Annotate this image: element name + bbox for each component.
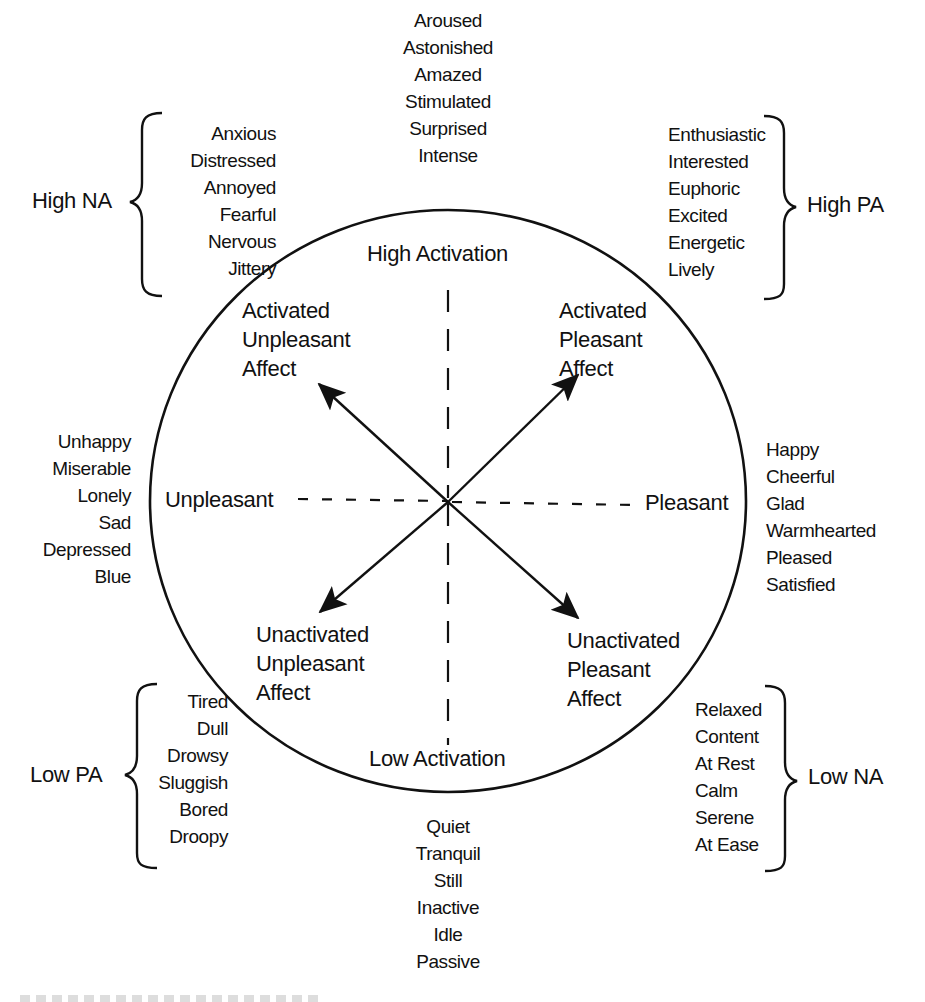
word: Drowsy xyxy=(167,742,228,769)
word: Satisfied xyxy=(766,571,835,598)
word: Glad xyxy=(766,490,805,517)
word-group-low-pa: Tired Dull Drowsy Sluggish Bored Droopy xyxy=(130,688,228,850)
quadrant-activated-unpleasant: Activated Unpleasant Affect xyxy=(242,296,350,383)
word: Happy xyxy=(766,436,819,463)
quadrant-activated-pleasant: Activated Pleasant Affect xyxy=(559,296,647,383)
word: Pleased xyxy=(766,544,832,571)
quadrant-line: Pleasant xyxy=(567,655,680,684)
word: Enthusiastic xyxy=(668,121,766,148)
label-low-pa: Low PA xyxy=(30,760,102,790)
quadrant-line: Activated xyxy=(559,296,647,325)
quadrant-unactivated-unpleasant: Unactivated Unpleasant Affect xyxy=(256,620,369,707)
word: Lonely xyxy=(77,482,131,509)
word: Miserable xyxy=(52,455,131,482)
word: Sad xyxy=(98,509,131,536)
word: Calm xyxy=(695,777,738,804)
word: Fearful xyxy=(220,201,276,228)
word: Jittery xyxy=(228,255,276,282)
quadrant-line: Affect xyxy=(242,354,350,383)
word: Distressed xyxy=(190,147,276,174)
cropped-caption xyxy=(20,995,320,1002)
word-group-right: Happy Cheerful Glad Warmhearted Pleased … xyxy=(766,436,876,598)
word: At Rest xyxy=(695,750,755,777)
word: Quiet xyxy=(426,813,469,840)
word: Lively xyxy=(668,256,714,283)
brace-low-na xyxy=(765,686,797,871)
word-group-low-na: Relaxed Content At Rest Calm Serene At E… xyxy=(695,696,762,858)
word: Passive xyxy=(416,948,480,975)
word: Energetic xyxy=(668,229,745,256)
quadrant-line: Unpleasant xyxy=(242,325,350,354)
word: Astonished xyxy=(403,34,493,61)
word: At Ease xyxy=(695,831,759,858)
word: Idle xyxy=(433,921,462,948)
quadrant-line: Unpleasant xyxy=(256,649,369,678)
pleasantness-axis-right xyxy=(452,502,636,505)
word: Excited xyxy=(668,202,728,229)
word: Aroused xyxy=(414,7,482,34)
word: Blue xyxy=(95,563,131,590)
word: Bored xyxy=(179,796,228,823)
word: Inactive xyxy=(417,894,479,921)
quadrant-line: Activated xyxy=(242,296,350,325)
word: Still xyxy=(434,867,463,894)
word: Serene xyxy=(695,804,754,831)
quadrant-unactivated-pleasant: Unactivated Pleasant Affect xyxy=(567,626,680,713)
word-group-high-na: Anxious Distressed Annoyed Fearful Nervo… xyxy=(140,120,276,282)
word: Warmhearted xyxy=(766,517,876,544)
quadrant-line: Affect xyxy=(256,678,369,707)
label-pleasant: Pleasant xyxy=(645,488,728,518)
brace-high-pa xyxy=(764,116,796,299)
word-group-left: Unhappy Miserable Lonely Sad Depressed B… xyxy=(20,428,131,590)
pleasantness-axis-left xyxy=(298,499,448,501)
quadrant-line: Affect xyxy=(567,684,680,713)
word: Surprised xyxy=(409,115,487,142)
quadrant-line: Unactivated xyxy=(256,620,369,649)
word: Droopy xyxy=(169,823,228,850)
word: Depressed xyxy=(43,536,131,563)
arrow-unactivated-pleasant xyxy=(448,502,578,618)
label-high-na: High NA xyxy=(32,186,112,216)
word: Nervous xyxy=(208,228,276,255)
quadrant-line: Affect xyxy=(559,354,647,383)
word: Euphoric xyxy=(668,175,740,202)
word: Tired xyxy=(187,688,228,715)
word: Dull xyxy=(197,715,228,742)
word-group-high-pa: Enthusiastic Interested Euphoric Excited… xyxy=(668,121,766,283)
label-low-activation: Low Activation xyxy=(369,744,505,774)
arrow-unactivated-unpleasant xyxy=(320,502,448,612)
arrow-activated-pleasant xyxy=(448,375,578,502)
word: Anxious xyxy=(211,120,276,147)
label-low-na: Low NA xyxy=(808,762,883,792)
label-high-pa: High PA xyxy=(807,190,884,220)
word: Interested xyxy=(668,148,749,175)
word: Amazed xyxy=(414,61,481,88)
word: Stimulated xyxy=(405,88,491,115)
word: Sluggish xyxy=(158,769,228,796)
quadrant-line: Unactivated xyxy=(567,626,680,655)
label-unpleasant: Unpleasant xyxy=(165,485,273,515)
label-high-activation: High Activation xyxy=(367,239,508,269)
word-group-top: Aroused Astonished Amazed Stimulated Sur… xyxy=(368,7,528,169)
word-group-bottom: Quiet Tranquil Still Inactive Idle Passi… xyxy=(368,813,528,975)
arrow-activated-unpleasant xyxy=(319,384,448,502)
word: Cheerful xyxy=(766,463,835,490)
word: Tranquil xyxy=(416,840,481,867)
word: Relaxed xyxy=(695,696,762,723)
word: Unhappy xyxy=(58,428,131,455)
quadrant-line: Pleasant xyxy=(559,325,647,354)
word: Intense xyxy=(418,142,478,169)
word: Annoyed xyxy=(204,174,276,201)
word: Content xyxy=(695,723,759,750)
